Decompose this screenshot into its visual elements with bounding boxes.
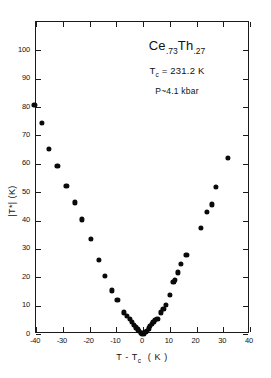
- pressure-line: P~4.1 kbar: [118, 86, 236, 96]
- data-point: [46, 146, 51, 151]
- formula-element-ce: Ce: [149, 38, 166, 53]
- y-tick-left: [36, 50, 41, 51]
- x-tick-bottom: [250, 327, 251, 332]
- y-tick-right: [243, 249, 248, 250]
- x-tick-top: [116, 22, 117, 27]
- x-tick-bottom: [63, 327, 64, 332]
- data-point: [102, 273, 107, 278]
- y-tick-right: [243, 221, 248, 222]
- x-tick-top: [223, 22, 224, 27]
- x-tick-bottom: [36, 327, 37, 332]
- y-tick-right: [243, 277, 248, 278]
- x-tick-bottom: [90, 327, 91, 332]
- y-tick-left: [36, 306, 41, 307]
- x-axis-label-text: T - Tc ( K ): [116, 352, 168, 362]
- data-point: [39, 120, 44, 125]
- data-point: [172, 278, 177, 283]
- x-tick-top: [63, 22, 64, 27]
- x-tick-top: [36, 22, 37, 27]
- y-tick-left: [36, 249, 41, 250]
- x-tick-label: -20: [76, 336, 102, 345]
- y-tick-label: 0: [6, 329, 30, 338]
- y-tick-left: [36, 334, 41, 335]
- y-tick-label: 60: [6, 158, 30, 167]
- x-tick-label: -30: [49, 336, 75, 345]
- data-point: [175, 270, 180, 275]
- x-tick-label: -10: [102, 336, 128, 345]
- x-tick-bottom: [116, 327, 117, 332]
- formula-subscript-ce: .73: [166, 46, 178, 56]
- y-tick-right: [243, 164, 248, 165]
- annotation-block: Ce.73Th.27 Tc = 231.2 K P~4.1 kbar: [118, 38, 236, 96]
- y-tick-left: [36, 135, 41, 136]
- y-tick-label: 80: [6, 102, 30, 111]
- x-tick-label: 40: [236, 336, 262, 345]
- data-point: [64, 183, 69, 188]
- y-tick-left: [36, 164, 41, 165]
- data-point: [225, 156, 230, 161]
- y-tick-label: 90: [6, 73, 30, 82]
- x-tick-bottom: [170, 327, 171, 332]
- data-point: [198, 225, 203, 230]
- x-tick-bottom: [223, 327, 224, 332]
- x-tick-top: [90, 22, 91, 27]
- tc-value: = 231.2 K: [159, 65, 205, 76]
- data-point: [214, 184, 219, 189]
- data-point: [79, 217, 84, 222]
- data-point: [184, 253, 189, 258]
- x-tick-label: 10: [156, 336, 182, 345]
- y-tick-left: [36, 79, 41, 80]
- formula-subscript-th: .27: [194, 46, 206, 56]
- data-point: [209, 202, 214, 207]
- y-tick-label: 20: [6, 272, 30, 281]
- y-tick-label: 10: [6, 300, 30, 309]
- y-tick-label: 40: [6, 215, 30, 224]
- y-tick-label: 50: [6, 187, 30, 196]
- data-point: [115, 297, 120, 302]
- figure-canvas: |T*| (K) T - Tc ( K ) Ce.73Th.27 Tc = 23…: [0, 0, 271, 378]
- y-tick-right: [243, 306, 248, 307]
- x-tick-bottom: [197, 327, 198, 332]
- y-tick-right: [243, 79, 248, 80]
- y-tick-label: 30: [6, 243, 30, 252]
- y-tick-right: [243, 192, 248, 193]
- data-point: [96, 257, 101, 262]
- x-tick-top: [250, 22, 251, 27]
- x-tick-top: [143, 22, 144, 27]
- data-point: [163, 302, 168, 307]
- data-point: [88, 237, 93, 242]
- data-point: [72, 200, 77, 205]
- y-tick-right: [243, 50, 248, 51]
- data-point: [155, 316, 160, 321]
- data-point: [178, 261, 183, 266]
- x-axis-label-subscript: c: [138, 357, 142, 364]
- y-tick-right: [243, 107, 248, 108]
- x-axis-label: T - Tc ( K ): [35, 352, 249, 364]
- data-point: [109, 288, 114, 293]
- y-tick-left: [36, 277, 41, 278]
- data-point: [204, 209, 209, 214]
- data-point: [55, 163, 60, 168]
- y-tick-left: [36, 107, 41, 108]
- x-tick-label: 20: [183, 336, 209, 345]
- data-point: [168, 292, 173, 297]
- formula-element-th: Th: [178, 38, 194, 53]
- x-tick-top: [170, 22, 171, 27]
- y-axis-label: |T*| (K): [7, 156, 17, 246]
- y-tick-label: 70: [6, 130, 30, 139]
- y-tick-right: [243, 135, 248, 136]
- x-tick-label: 0: [129, 336, 155, 345]
- x-tick-top: [197, 22, 198, 27]
- x-tick-label: 30: [209, 336, 235, 345]
- sample-formula: Ce.73Th.27: [118, 38, 236, 56]
- y-tick-left: [36, 221, 41, 222]
- y-tick-right: [243, 334, 248, 335]
- critical-temperature-line: Tc = 231.2 K: [118, 65, 236, 78]
- y-tick-label: 100: [6, 45, 30, 54]
- y-tick-left: [36, 192, 41, 193]
